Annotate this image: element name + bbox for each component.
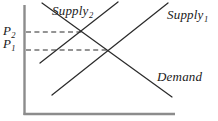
supply2-label-text: Supply [52, 3, 89, 18]
supply1-curve-label: Supply1 [167, 8, 208, 21]
price-label-p1-text: P [3, 36, 11, 51]
supply1-label-text: Supply [167, 7, 204, 22]
demand-curve-label: Demand [157, 70, 202, 83]
supply2-label-subscript: 2 [89, 10, 93, 20]
price-label-p1: P1 [3, 37, 15, 50]
supply-demand-diagram: Supply2 Supply1 Demand P2 P1 [0, 0, 218, 121]
supply2-curve-label: Supply2 [52, 4, 93, 17]
price-label-p1-subscript: 1 [11, 43, 15, 53]
supply1-label-subscript: 1 [204, 14, 208, 24]
